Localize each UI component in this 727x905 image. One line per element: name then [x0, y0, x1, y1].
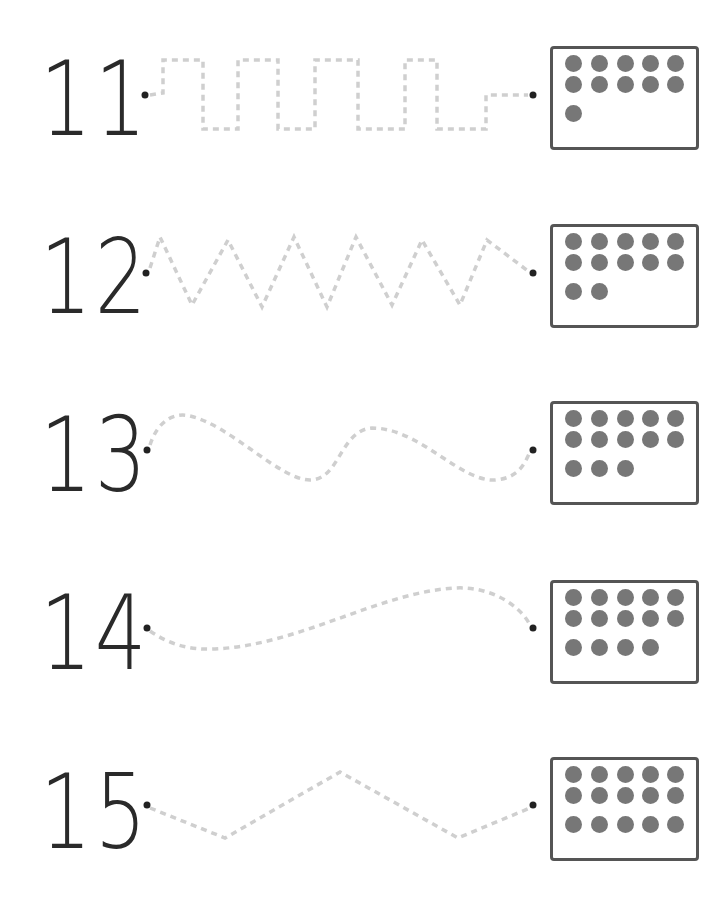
counter-dot: [667, 410, 684, 427]
counter-dot: [617, 639, 634, 656]
counter-dot: [591, 76, 608, 93]
counter-dot: [667, 431, 684, 448]
end-dot-12: [530, 270, 537, 277]
end-dot-15: [530, 802, 537, 809]
ten-frame-box-13: [550, 401, 699, 505]
counter-dot: [617, 410, 634, 427]
trace-path-14: [150, 588, 530, 649]
counter-dot: [591, 254, 608, 271]
counter-dot: [667, 816, 684, 833]
counter-dot: [591, 816, 608, 833]
counter-dot: [591, 639, 608, 656]
counter-dot: [617, 233, 634, 250]
counter-dot: [617, 55, 634, 72]
counter-dot: [565, 55, 582, 72]
counter-dot: [642, 233, 659, 250]
counter-dot: [565, 787, 582, 804]
counter-dot: [667, 766, 684, 783]
trace-path-11: [150, 60, 528, 129]
counter-dot: [591, 766, 608, 783]
counter-dot: [667, 233, 684, 250]
counter-dot: [591, 610, 608, 627]
counter-dot: [642, 816, 659, 833]
trace-path-13: [150, 415, 530, 480]
numeral-14: 14: [40, 581, 149, 685]
counter-dot: [667, 254, 684, 271]
ten-frame-box-14: [550, 580, 699, 684]
counter-dot: [642, 55, 659, 72]
counter-dot: [565, 233, 582, 250]
counter-dot: [591, 283, 608, 300]
counter-dot: [565, 460, 582, 477]
counter-dot: [565, 105, 582, 122]
ten-frame-box-11: [550, 46, 699, 150]
counter-dot: [617, 589, 634, 606]
counter-dot: [617, 787, 634, 804]
counter-dot: [591, 233, 608, 250]
trace-path-15: [150, 772, 530, 838]
counter-dot: [617, 460, 634, 477]
counter-dot: [642, 76, 659, 93]
counter-dot: [642, 589, 659, 606]
counter-dot: [667, 76, 684, 93]
counter-dot: [642, 610, 659, 627]
counter-dot: [642, 410, 659, 427]
counter-dot: [565, 816, 582, 833]
numeral-15: 15: [40, 760, 149, 864]
counter-dot: [642, 639, 659, 656]
counter-dot: [565, 283, 582, 300]
counter-dot: [591, 589, 608, 606]
ten-frame-box-12: [550, 224, 699, 328]
counter-dot: [667, 610, 684, 627]
counter-dot: [642, 431, 659, 448]
numeral-13: 13: [40, 403, 149, 507]
counter-dot: [565, 431, 582, 448]
counter-dot: [565, 76, 582, 93]
end-dot-13: [530, 447, 537, 454]
counter-dot: [642, 254, 659, 271]
counter-dot: [565, 639, 582, 656]
numeral-11: 11: [40, 47, 149, 151]
counter-dot: [565, 610, 582, 627]
counter-dot: [642, 787, 659, 804]
counter-dot: [565, 766, 582, 783]
counter-dot: [565, 589, 582, 606]
numeral-12: 12: [40, 225, 149, 329]
trace-path-12: [150, 237, 528, 307]
counter-dot: [617, 610, 634, 627]
counter-dot: [667, 589, 684, 606]
counter-dot: [667, 787, 684, 804]
counter-dot: [565, 410, 582, 427]
counter-dot: [565, 254, 582, 271]
end-dot-14: [530, 625, 537, 632]
counter-dot: [617, 766, 634, 783]
counter-dot: [617, 816, 634, 833]
counter-dot: [591, 460, 608, 477]
counter-dot: [617, 76, 634, 93]
ten-frame-box-15: [550, 757, 699, 861]
counter-dot: [591, 410, 608, 427]
counter-dot: [617, 431, 634, 448]
counter-dot: [591, 55, 608, 72]
counter-dot: [591, 787, 608, 804]
counter-dot: [591, 431, 608, 448]
counter-dot: [617, 254, 634, 271]
end-dot-11: [530, 92, 537, 99]
counter-dot: [642, 766, 659, 783]
counter-dot: [667, 55, 684, 72]
